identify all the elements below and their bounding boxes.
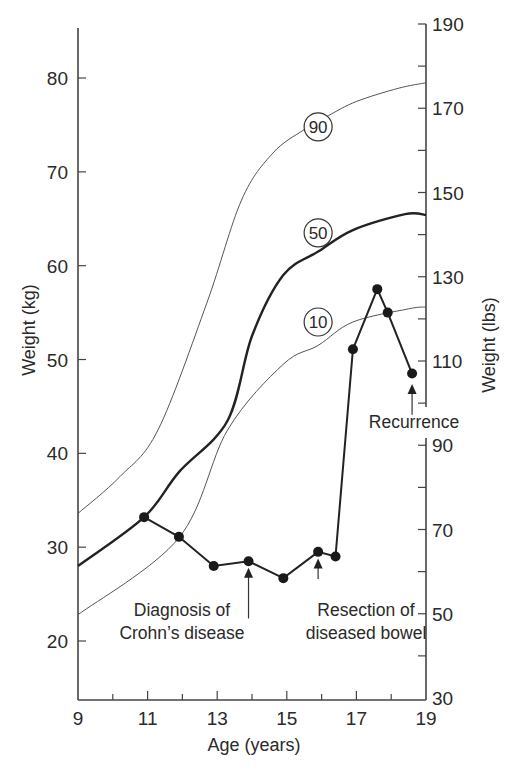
arrow-head-icon (314, 558, 323, 568)
data-point (407, 369, 417, 379)
percentile-label-10: 10 (304, 308, 332, 336)
y-right-tick-label: 110 (432, 351, 462, 372)
data-point (278, 573, 288, 583)
y-right-tick-label: 70 (432, 520, 453, 541)
percentile-curves (78, 83, 426, 615)
percentile-label-90: 90 (304, 113, 332, 141)
x-axis-ticks: 91113151719 (73, 691, 437, 729)
y-right-tick-label: 130 (432, 267, 464, 288)
data-point (174, 532, 184, 542)
data-point (331, 552, 341, 562)
y-right-tick-label: 150 (432, 183, 464, 204)
x-axis-title: Age (years) (207, 735, 300, 755)
right-y-axis-ticks: 30507090110130150170190 (418, 14, 464, 709)
arrow-head-icon (408, 384, 417, 394)
x-tick-label: 15 (276, 708, 297, 729)
annotation-text: Resection of (317, 600, 414, 620)
y-right-tick-label: 170 (432, 98, 464, 119)
y-tick-label: 30 (47, 537, 68, 558)
annotation-text: diseased bowel (306, 623, 427, 643)
percentile-text: 10 (309, 313, 328, 332)
y-tick-label: 20 (47, 631, 68, 652)
data-point (313, 547, 323, 557)
annotation-2: Resection ofdiseased bowel (306, 558, 427, 643)
x-tick-label: 13 (207, 708, 228, 729)
percentile-text: 90 (309, 118, 328, 137)
patient-weight-series (139, 284, 417, 583)
y-tick-label: 70 (47, 162, 68, 183)
y-right-tick-label: 50 (432, 604, 453, 625)
annotation-1: Diagnosis ofCrohn’s disease (119, 568, 253, 643)
annotation-text: Recurrence (369, 412, 459, 432)
y-right-tick-label: 90 (432, 435, 453, 456)
percentile-label-50: 50 (304, 219, 332, 247)
y-tick-label: 50 (47, 350, 68, 371)
y-right-tick-label: 30 (432, 688, 453, 709)
plot-frame (78, 24, 426, 700)
data-point (139, 512, 149, 522)
growth-chart: 91113151719 20304050607080 3050709011013… (0, 0, 508, 772)
percentile-labels: 905010 (304, 113, 332, 336)
x-tick-label: 19 (415, 708, 436, 729)
y-tick-label: 80 (47, 68, 68, 89)
y-tick-label: 40 (47, 443, 68, 464)
data-point (209, 561, 219, 571)
arrow-head-icon (244, 568, 253, 578)
left-y-axis-title: Weight (kg) (19, 284, 39, 376)
annotation-text: Diagnosis of (134, 600, 230, 620)
data-point (383, 308, 393, 318)
x-tick-label: 17 (346, 708, 367, 729)
y-right-tick-label: 190 (432, 14, 464, 35)
x-tick-label: 9 (73, 708, 84, 729)
right-y-axis-title: Weight (lbs) (479, 297, 499, 393)
patient-weight-line (144, 289, 412, 578)
annotations: Diagnosis ofCrohn’s diseaseResection ofd… (119, 384, 459, 643)
x-tick-label: 11 (138, 708, 158, 729)
annotation-text: Crohn’s disease (119, 623, 244, 643)
data-point (372, 284, 382, 294)
data-point (244, 556, 254, 566)
data-point (348, 344, 358, 354)
percentile-text: 50 (309, 224, 328, 243)
y-tick-label: 60 (47, 256, 68, 277)
annotation-3: Recurrence (369, 384, 459, 432)
percentile-curve-50 (78, 213, 426, 566)
percentile-curve-10 (78, 307, 426, 615)
